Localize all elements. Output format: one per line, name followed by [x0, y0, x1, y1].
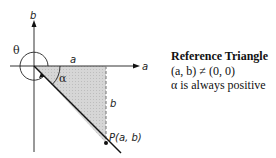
caption-condition: (a, b) ≠ (0, 0) — [171, 64, 268, 78]
point-p-label: P(a, b) — [109, 132, 142, 143]
y-axis-arrow-icon — [32, 20, 37, 27]
alpha-label: α — [59, 72, 67, 85]
side-a-label: a — [70, 54, 76, 65]
caption-note: α is always positive — [171, 78, 268, 92]
y-axis-label: b — [30, 10, 36, 21]
caption-title: Reference Triangle — [171, 49, 268, 64]
side-b-label: b — [110, 98, 116, 109]
point-p — [104, 141, 108, 145]
caption-block: Reference Triangle (a, b) ≠ (0, 0) α is … — [171, 49, 268, 92]
x-axis-arrow-icon — [133, 64, 140, 69]
x-axis-label: a — [142, 61, 148, 72]
theta-label: θ — [13, 44, 20, 57]
